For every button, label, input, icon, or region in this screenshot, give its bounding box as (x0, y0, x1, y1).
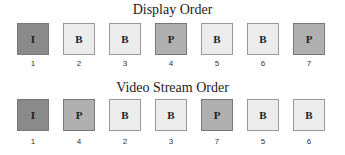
frame-box: B (155, 99, 187, 131)
frame-box: B (247, 99, 279, 131)
frame-number: 4 (155, 59, 187, 68)
frame-box: P (201, 99, 233, 131)
frame-box: I (17, 23, 49, 55)
frame-number: 7 (293, 59, 325, 68)
display-order-row: I B B P B B P 1 2 3 4 5 6 7 (17, 23, 337, 73)
stream-order-row: I P B B P B B 1 4 2 3 7 5 6 (17, 99, 337, 149)
frame-box: B (293, 99, 325, 131)
frame-number: 4 (63, 137, 95, 146)
frame-number: 3 (155, 137, 187, 146)
frame-number: 1 (17, 137, 49, 146)
frame-number: 5 (201, 59, 233, 68)
frame-number: 2 (109, 137, 141, 146)
frame-box: P (155, 23, 187, 55)
frame-number: 1 (17, 59, 49, 68)
frame-number: 2 (63, 59, 95, 68)
frame-number: 5 (247, 137, 279, 146)
frame-box: B (109, 99, 141, 131)
frame-number: 6 (247, 59, 279, 68)
frame-number: 6 (293, 137, 325, 146)
frame-number: 3 (109, 59, 141, 68)
frame-box: P (293, 23, 325, 55)
stream-order-title: Video Stream Order (0, 80, 345, 96)
display-order-title: Display Order (0, 2, 345, 18)
frame-box: B (109, 23, 141, 55)
frame-number: 7 (201, 137, 233, 146)
frame-box: B (63, 23, 95, 55)
frame-box: P (63, 99, 95, 131)
frame-box: B (247, 23, 279, 55)
frame-box: B (201, 23, 233, 55)
frame-box: I (17, 99, 49, 131)
